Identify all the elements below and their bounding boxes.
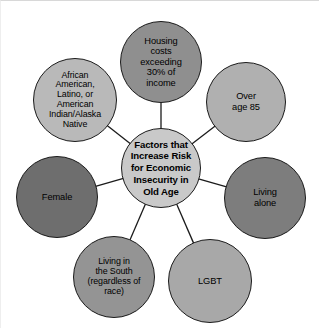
- node-race-ethnicity-label: African American, Latino, or American In…: [34, 71, 116, 130]
- node-race-ethnicity[interactable]: African American, Latino, or American In…: [33, 58, 117, 142]
- connector-hub-to-living-alone: [198, 179, 226, 187]
- hub-node-label: Factors that Increase Risk for Economic …: [122, 139, 200, 198]
- node-female[interactable]: Female: [16, 156, 98, 238]
- node-lgbt[interactable]: LGBT: [168, 239, 252, 323]
- node-housing-costs[interactable]: Housing costs exceeding 30% of income: [120, 21, 202, 103]
- node-over-age-85-label: Over age 85: [207, 91, 285, 112]
- connector-hub-to-over-age-85: [192, 126, 215, 144]
- connector-hub-to-living-in-south: [130, 204, 146, 240]
- connector-hub-to-race-ethnicity: [107, 125, 130, 143]
- node-female-label: Female: [17, 192, 97, 203]
- connector-hub-to-lgbt: [177, 204, 194, 244]
- node-living-alone-label: Living alone: [225, 187, 305, 208]
- diagram-canvas: Factors that Increase Risk for Economic …: [0, 0, 319, 328]
- node-over-age-85[interactable]: Over age 85: [206, 62, 286, 142]
- connector-hub-to-female: [96, 178, 124, 186]
- node-living-in-south[interactable]: Living in the South (regardless of race): [73, 236, 155, 318]
- node-lgbt-label: LGBT: [169, 276, 251, 287]
- node-living-in-south-label: Living in the South (regardless of race): [74, 257, 154, 296]
- hub-node-factors[interactable]: Factors that Increase Risk for Economic …: [121, 128, 201, 208]
- node-living-alone[interactable]: Living alone: [224, 157, 306, 239]
- node-housing-costs-label: Housing costs exceeding 30% of income: [121, 36, 201, 89]
